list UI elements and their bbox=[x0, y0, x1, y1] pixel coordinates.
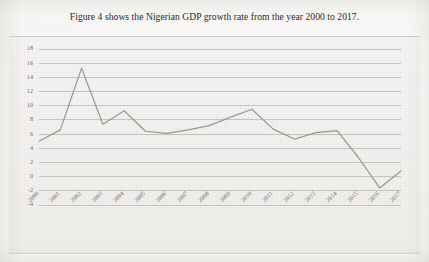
figure-caption: Figure 4 shows the Nigerian GDP growth r… bbox=[0, 10, 429, 23]
y-tick-label: 6 bbox=[30, 130, 33, 137]
y-tick-label: 2 bbox=[30, 158, 33, 165]
x-tick-label: 2008 bbox=[196, 190, 210, 204]
y-tick-label: 10 bbox=[27, 101, 33, 108]
y-tick-label: 12 bbox=[27, 87, 33, 94]
x-tick-label: 2006 bbox=[154, 190, 168, 204]
x-tick-label: 2009 bbox=[218, 190, 232, 204]
x-tick-label: 2004 bbox=[111, 190, 125, 204]
gdp-growth-series-line bbox=[39, 68, 401, 188]
x-tick-label: 2007 bbox=[175, 190, 189, 204]
figure-page: Figure 4 shows the Nigerian GDP growth r… bbox=[0, 0, 429, 262]
x-tick-label: 2002 bbox=[69, 190, 83, 204]
y-axis-tick-labels: -4-2024681012141618 bbox=[27, 44, 33, 207]
y-tick-label: 4 bbox=[30, 144, 33, 151]
y-tick-label: 16 bbox=[27, 59, 33, 66]
gdp-growth-line-chart: -4-2024681012141618 20002001200220032004… bbox=[9, 37, 420, 254]
x-tick-label: 2016 bbox=[367, 190, 381, 204]
y-tick-label: 18 bbox=[27, 44, 33, 51]
x-tick-label: 2012 bbox=[282, 190, 296, 204]
y-tick-label: 14 bbox=[27, 73, 33, 80]
x-tick-label: 2010 bbox=[239, 190, 253, 204]
x-tick-label: 2003 bbox=[90, 190, 104, 204]
y-tick-label: 8 bbox=[30, 115, 33, 122]
x-tick-label: 2017 bbox=[388, 190, 402, 204]
gridlines bbox=[39, 49, 401, 205]
x-tick-label: 2013 bbox=[303, 190, 317, 204]
x-tick-label: 2011 bbox=[260, 190, 274, 204]
y-tick-label: 0 bbox=[30, 172, 33, 179]
x-tick-label: 2014 bbox=[324, 190, 338, 204]
chart-plot-area: -4-2024681012141618 20002001200220032004… bbox=[9, 36, 420, 254]
x-tick-label: 2001 bbox=[47, 190, 61, 204]
x-axis-tick-labels: 2000200120022003200420052006200720082009… bbox=[26, 190, 402, 204]
x-tick-label: 2005 bbox=[132, 190, 146, 204]
x-tick-label: 2015 bbox=[345, 190, 359, 204]
